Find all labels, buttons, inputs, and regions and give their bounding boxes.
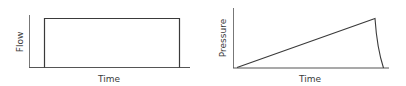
pressure-ramp-curve [237, 19, 384, 69]
flow-x-label: Time [97, 74, 120, 84]
flow-square-wave [45, 19, 180, 68]
flow-y-label: Flow [15, 32, 25, 53]
pressure-x-label: Time [298, 74, 321, 84]
flow-chart: Flow Time [15, 15, 190, 84]
pressure-y-label: Pressure [218, 18, 228, 57]
waveform-diagram: Flow Time Pressure Time [0, 0, 406, 86]
pressure-chart: Pressure Time [218, 8, 389, 84]
